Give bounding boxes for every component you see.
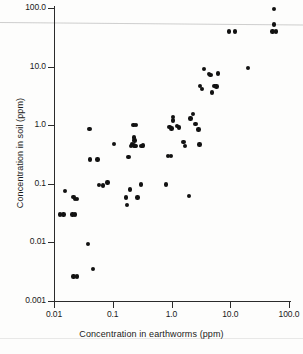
- data-point: [124, 195, 128, 199]
- data-point: [164, 182, 168, 186]
- data-point: [208, 73, 212, 77]
- data-point: [139, 182, 143, 186]
- data-point: [196, 127, 200, 131]
- data-point: [177, 125, 181, 129]
- x-tick-label: 100.0: [279, 310, 300, 319]
- data-point: [233, 29, 237, 33]
- data-point: [191, 112, 195, 116]
- data-point: [171, 115, 175, 119]
- data-point: [171, 118, 175, 122]
- data-point: [193, 122, 197, 126]
- data-point: [87, 127, 91, 131]
- data-point: [135, 195, 139, 199]
- y-tick-label: 100.0: [2, 3, 46, 12]
- data-point: [188, 116, 192, 120]
- data-point: [126, 155, 130, 159]
- x-tick-label: 1.0: [166, 310, 178, 319]
- data-point: [227, 29, 231, 33]
- data-point: [73, 212, 77, 216]
- data-point: [95, 157, 99, 161]
- data-point: [210, 90, 214, 94]
- x-axis-title: Concentration in earthworms (ppm): [0, 329, 303, 339]
- data-point: [75, 197, 79, 201]
- data-point: [133, 144, 137, 148]
- data-point: [272, 22, 276, 26]
- x-tick-mark: [289, 302, 290, 308]
- x-tick-label: 0.01: [46, 310, 62, 319]
- scatter-plot-figure: 0.0010.010.11.010.0100.0 0.010.11.010.01…: [0, 0, 303, 354]
- x-tick-mark: [172, 302, 173, 308]
- data-points-layer: [54, 8, 289, 301]
- data-point: [214, 84, 218, 88]
- x-tick-mark: [54, 302, 55, 308]
- data-point: [169, 154, 173, 158]
- data-point: [200, 87, 204, 91]
- data-point: [187, 194, 191, 198]
- data-point: [112, 142, 116, 146]
- data-point: [88, 157, 92, 161]
- data-point: [128, 187, 132, 191]
- data-point: [134, 123, 138, 127]
- y-axis-title: Concentration in soil (ppm): [15, 73, 25, 233]
- data-point: [125, 203, 129, 207]
- data-point: [63, 189, 67, 193]
- data-point: [86, 242, 90, 246]
- x-tick-label: 0.1: [107, 310, 119, 319]
- data-point: [132, 138, 136, 142]
- data-point: [197, 142, 201, 146]
- data-point: [75, 274, 79, 278]
- data-point: [169, 126, 173, 130]
- data-point: [105, 180, 109, 184]
- x-tick-mark: [113, 302, 114, 308]
- data-point: [183, 144, 187, 148]
- y-tick-label: 0.01: [2, 237, 46, 246]
- data-point: [216, 71, 220, 75]
- y-tick-label: 10.0: [2, 62, 46, 71]
- data-point: [246, 66, 250, 70]
- x-tick-mark: [230, 302, 231, 308]
- data-point: [61, 212, 65, 216]
- data-point: [91, 267, 95, 271]
- data-point: [141, 143, 145, 147]
- data-point: [272, 7, 276, 11]
- data-point: [202, 67, 206, 71]
- data-point: [274, 29, 278, 33]
- x-tick-label: 10.0: [222, 310, 238, 319]
- y-tick-label: 0.001: [2, 296, 46, 305]
